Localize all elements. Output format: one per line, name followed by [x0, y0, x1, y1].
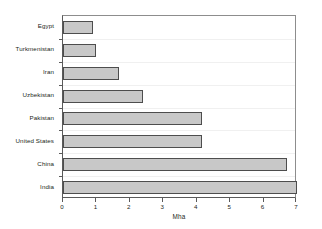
- bar: [63, 21, 93, 34]
- bar-row: [63, 176, 297, 199]
- bar: [63, 90, 143, 103]
- x-axis-tick: [263, 198, 264, 202]
- bar-row: [63, 85, 143, 108]
- x-axis-tick-label: 6: [261, 204, 264, 210]
- x-axis-tick-label: 7: [294, 204, 297, 210]
- bar-row: [63, 108, 202, 131]
- bar-row: [63, 39, 96, 62]
- bar-row: [63, 153, 287, 176]
- y-axis-label: Egypt: [38, 23, 54, 29]
- x-axis-title: Mha: [62, 214, 296, 220]
- y-axis-label: India: [40, 183, 54, 189]
- x-axis-tick-label: 5: [227, 204, 230, 210]
- y-axis-category-labels: EgyptTurkmenistanIranUzbekistanPakistanU…: [0, 15, 58, 198]
- y-axis-label: China: [37, 161, 54, 167]
- chart-figure: EgyptTurkmenistanIranUzbekistanPakistanU…: [0, 0, 322, 229]
- x-axis-tick-label: 3: [161, 204, 164, 210]
- plot-area: [62, 15, 296, 198]
- bar: [63, 44, 96, 57]
- x-axis-tick: [196, 198, 197, 202]
- bar: [63, 158, 287, 171]
- bar: [63, 135, 202, 148]
- x-axis-tick-label: 0: [60, 204, 63, 210]
- x-axis-tick: [95, 198, 96, 202]
- bar-row: [63, 16, 93, 39]
- x-axis-tick: [62, 198, 63, 202]
- y-axis-label: Uzbekistan: [22, 92, 54, 98]
- x-axis-tick: [162, 198, 163, 202]
- bar: [63, 67, 119, 80]
- x-axis-tick-label: 4: [194, 204, 197, 210]
- bar-row: [63, 130, 202, 153]
- gridline: [63, 39, 295, 40]
- x-axis-tick-label: 2: [127, 204, 130, 210]
- bar: [63, 112, 202, 125]
- x-axis-tick-label: 1: [94, 204, 97, 210]
- y-axis-label: Pakistan: [29, 115, 54, 121]
- x-axis-tick: [129, 198, 130, 202]
- y-axis-label: Iran: [43, 69, 54, 75]
- x-axis-tick: [295, 198, 296, 202]
- x-axis-tick: [229, 198, 230, 202]
- chart-title: [62, 1, 296, 10]
- y-axis-label: Turkmenistan: [16, 46, 54, 52]
- y-axis-label: United States: [16, 138, 54, 144]
- bar-row: [63, 62, 119, 85]
- bar: [63, 181, 297, 194]
